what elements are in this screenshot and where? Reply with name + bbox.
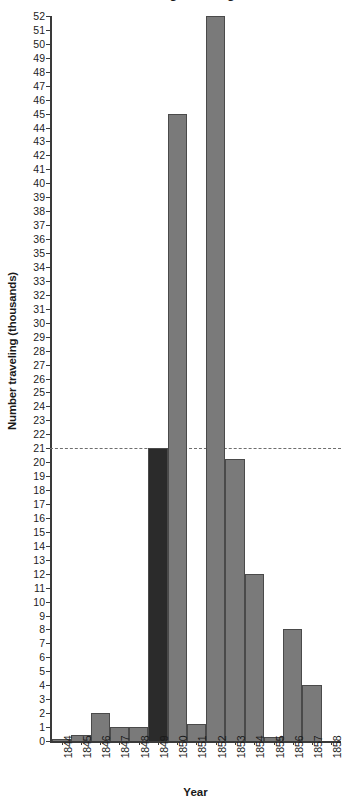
- bar: [206, 16, 225, 741]
- y-tick-label: 33: [2, 275, 50, 287]
- y-tick-label: 3: [2, 693, 50, 705]
- chart-title: who walked along the Oregon Trail: [0, 0, 346, 2]
- y-tick-label: 25: [2, 386, 50, 398]
- y-tick-mark: [46, 392, 50, 393]
- y-tick-mark: [46, 30, 50, 31]
- y-tick-mark: [46, 253, 50, 254]
- x-tick: 1846: [91, 745, 110, 791]
- y-tick-mark: [46, 420, 50, 421]
- y-tick-label: 36: [2, 233, 50, 245]
- bar-slot: [225, 16, 244, 741]
- x-tick: 1844: [52, 745, 71, 791]
- bar-slot: [187, 16, 206, 741]
- y-tick-label: 50: [2, 38, 50, 50]
- y-tick-mark: [46, 225, 50, 226]
- y-tick-mark: [46, 379, 50, 380]
- y-tick-label: 12: [2, 568, 50, 580]
- bar-chart: who walked along the Oregon Trail Number…: [0, 0, 346, 807]
- x-tick: 1856: [283, 745, 302, 791]
- x-axis-title: Year: [50, 786, 341, 798]
- y-tick-mark: [46, 114, 50, 115]
- y-tick-mark: [46, 588, 50, 589]
- y-tick-mark: [46, 657, 50, 658]
- bar-slot: [264, 16, 283, 741]
- y-tick-mark: [46, 741, 50, 742]
- y-tick-mark: [46, 281, 50, 282]
- x-tick: 1858: [322, 745, 341, 791]
- x-tick: 1852: [206, 745, 225, 791]
- y-tick-label: 34: [2, 261, 50, 273]
- y-tick-mark: [46, 86, 50, 87]
- y-tick-mark: [46, 699, 50, 700]
- y-tick-label: 14: [2, 540, 50, 552]
- y-tick-mark: [46, 713, 50, 714]
- y-tick-mark: [46, 16, 50, 17]
- bar: [302, 685, 321, 741]
- y-tick-mark: [46, 44, 50, 45]
- y-tick-label: 47: [2, 80, 50, 92]
- y-tick-mark: [46, 100, 50, 101]
- y-tick-mark: [46, 518, 50, 519]
- x-tick: 1854: [245, 745, 264, 791]
- chart-title-line-1: who walked along the Oregon Trail: [0, 0, 346, 2]
- y-tick-label: 26: [2, 373, 50, 385]
- y-tick-label: 21: [2, 442, 50, 454]
- x-tick: 1857: [302, 745, 321, 791]
- y-tick-mark: [46, 197, 50, 198]
- y-tick-label: 52: [2, 10, 50, 22]
- bar-slot: [302, 16, 321, 741]
- y-tick-mark: [46, 629, 50, 630]
- y-tick-mark: [46, 72, 50, 73]
- plot-area: 5251504948474645444342414039383736353433…: [50, 16, 341, 743]
- y-tick-label: 15: [2, 526, 50, 538]
- bar-slot: [168, 16, 187, 741]
- x-tick-label: 1858: [331, 736, 343, 759]
- y-tick-label: 11: [2, 582, 50, 594]
- y-tick-mark: [46, 309, 50, 310]
- y-tick-mark: [46, 141, 50, 142]
- y-tick-label: 27: [2, 359, 50, 371]
- y-tick-mark: [46, 211, 50, 212]
- y-tick-label: 17: [2, 498, 50, 510]
- x-tick: 1851: [187, 745, 206, 791]
- y-tick-mark: [46, 560, 50, 561]
- y-tick-label: 39: [2, 191, 50, 203]
- y-tick-mark: [46, 685, 50, 686]
- y-tick-label: 8: [2, 623, 50, 635]
- y-tick-label: 24: [2, 400, 50, 412]
- y-tick-mark: [46, 643, 50, 644]
- y-tick-label: 32: [2, 289, 50, 301]
- bar-slot: [206, 16, 225, 741]
- y-tick-label: 0: [2, 735, 50, 747]
- y-tick-label: 43: [2, 135, 50, 147]
- y-tick-label: 19: [2, 470, 50, 482]
- y-tick-label: 31: [2, 303, 50, 315]
- y-tick-label: 28: [2, 345, 50, 357]
- y-tick-label: 46: [2, 94, 50, 106]
- y-tick-label: 6: [2, 651, 50, 663]
- y-tick-label: 51: [2, 24, 50, 36]
- y-tick-mark: [46, 616, 50, 617]
- y-tick-mark: [46, 546, 50, 547]
- x-tick: 1845: [71, 745, 90, 791]
- y-tick-label: 20: [2, 456, 50, 468]
- bar-slot: [245, 16, 264, 741]
- x-tick: 1855: [264, 745, 283, 791]
- y-tick-mark: [46, 504, 50, 505]
- y-tick-label: 48: [2, 66, 50, 78]
- bar: [225, 459, 244, 741]
- bar: [168, 114, 187, 741]
- y-tick-label: 44: [2, 122, 50, 134]
- y-tick-label: 7: [2, 637, 50, 649]
- y-tick-mark: [46, 351, 50, 352]
- y-tick-mark: [46, 727, 50, 728]
- y-tick-label: 37: [2, 219, 50, 231]
- y-tick-mark: [46, 434, 50, 435]
- y-tick-mark: [46, 490, 50, 491]
- bar: [148, 448, 167, 741]
- y-tick-label: 4: [2, 679, 50, 691]
- y-tick-mark: [46, 323, 50, 324]
- bar-slot: [322, 16, 341, 741]
- y-tick-mark: [46, 155, 50, 156]
- y-tick-label: 23: [2, 414, 50, 426]
